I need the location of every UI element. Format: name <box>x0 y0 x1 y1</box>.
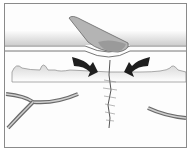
blood-vessel-right <box>148 108 186 118</box>
blood-vessel-branch-inner <box>8 102 33 128</box>
wound-healing-illustration <box>0 0 193 152</box>
dermis-edge <box>12 65 186 82</box>
skin-surface-line-2 <box>5 51 186 57</box>
wound-line <box>108 60 111 128</box>
